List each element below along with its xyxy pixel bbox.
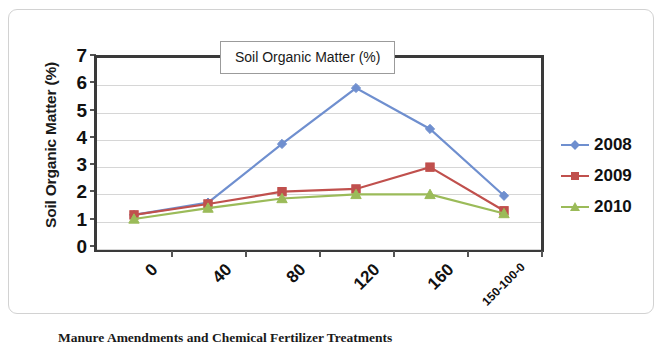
y-tick-label: 3 (65, 155, 87, 174)
x-tick-mark (467, 251, 469, 257)
series-line-2009 (134, 167, 504, 215)
x-tick-label: 150-100-0 (479, 260, 528, 309)
x-axis-tick-labels: 04080120160150-100-0 (94, 252, 544, 332)
x-tick-mark (541, 251, 543, 257)
gridline (97, 249, 541, 250)
chart-title: Soil Organic Matter (%) (220, 41, 395, 74)
legend-item-2008[interactable]: 2008 (561, 129, 661, 160)
x-tick-label: 160 (424, 260, 458, 294)
series-lines-layer (97, 58, 541, 249)
y-axis-tick-labels: 01234567 (57, 55, 87, 252)
y-tick-label: 0 (65, 237, 87, 256)
y-tick-label: 1 (65, 209, 87, 228)
legend-label: 2010 (594, 197, 632, 217)
x-tick-mark (319, 251, 321, 257)
x-axis-title: Manure Amendments and Chemical Fertilize… (58, 330, 392, 346)
y-tick-label: 7 (65, 46, 87, 65)
x-tick-label: 40 (209, 260, 237, 288)
x-tick-label: 0 (141, 260, 162, 281)
data-point-2009-160 (426, 163, 434, 171)
legend-item-2009[interactable]: 2009 (561, 160, 661, 191)
y-tick-label: 4 (65, 127, 87, 146)
x-tick-label: 120 (350, 260, 384, 294)
legend-swatch-square-icon (561, 169, 589, 183)
x-tick-mark (393, 251, 395, 257)
y-tick-label: 6 (65, 73, 87, 92)
x-tick-mark (171, 251, 173, 257)
legend-label: 2009 (594, 166, 632, 186)
plot-area (94, 55, 544, 252)
legend-swatch-diamond-icon (561, 138, 589, 152)
y-tick-label: 5 (65, 100, 87, 119)
legend-label: 2008 (594, 135, 632, 155)
chart-legend: 200820092010 (561, 129, 661, 222)
y-tick-label: 2 (65, 182, 87, 201)
x-tick-mark (245, 251, 247, 257)
x-tick-label: 80 (283, 260, 311, 288)
chart-figure-frame: Soil Organic Matter (%) 01234567 0408012… (8, 9, 654, 314)
legend-swatch-triangle-icon (561, 200, 589, 214)
legend-item-2010[interactable]: 2010 (561, 191, 661, 222)
